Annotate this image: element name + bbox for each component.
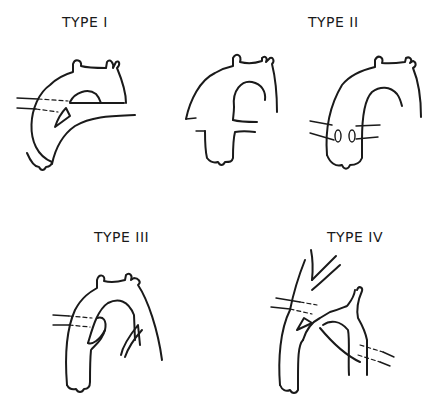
type-2b-drawing [310, 57, 421, 169]
type-4-drawing [271, 250, 394, 393]
type-2a-drawing [186, 55, 277, 165]
type-1-drawing [17, 60, 135, 170]
aortic-arch-diagram [0, 0, 433, 407]
type-3-drawing [53, 274, 162, 392]
